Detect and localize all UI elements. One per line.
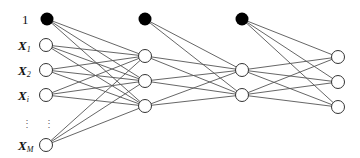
- output-node: [332, 101, 345, 114]
- connections: [46, 19, 338, 145]
- connection-edge: [242, 57, 338, 70]
- connection-edge: [145, 19, 242, 70]
- ellipsis: ⋮: [44, 118, 54, 129]
- network-svg: 1X1X2XiXM⋮⋮: [0, 0, 360, 158]
- input-node: [40, 139, 53, 152]
- input-label-2: X2: [17, 63, 31, 79]
- bias-node: [236, 13, 249, 26]
- input-label-1: X1: [17, 38, 31, 54]
- output-node: [332, 51, 345, 64]
- connection-edge: [145, 19, 242, 95]
- neural-network-diagram: 1X1X2XiXM⋮⋮: [0, 0, 360, 158]
- hidden-2-node: [236, 89, 249, 102]
- connection-edge: [46, 106, 145, 145]
- connection-edge: [46, 56, 145, 70]
- connection-edge: [145, 56, 242, 70]
- input-label-i: Xi: [17, 88, 29, 104]
- hidden-1-node: [139, 75, 152, 88]
- connection-edge: [242, 82, 338, 95]
- output-node: [332, 76, 345, 89]
- hidden-2-node: [236, 64, 249, 77]
- input-node: [40, 89, 53, 102]
- hidden-1-node: [139, 50, 152, 63]
- input-node: [40, 39, 53, 52]
- connection-edge: [242, 19, 338, 57]
- ellipsis: ⋮: [22, 118, 32, 129]
- input-node: [40, 64, 53, 77]
- bias-label: 1: [22, 12, 29, 27]
- input-label-M: XM: [17, 138, 35, 154]
- hidden-1-node: [139, 100, 152, 113]
- input-labels: 1X1X2XiXM⋮⋮: [17, 12, 54, 154]
- bias-node: [139, 13, 152, 26]
- connection-edge: [242, 19, 338, 82]
- bias-node: [41, 13, 54, 26]
- connection-edge: [46, 81, 145, 145]
